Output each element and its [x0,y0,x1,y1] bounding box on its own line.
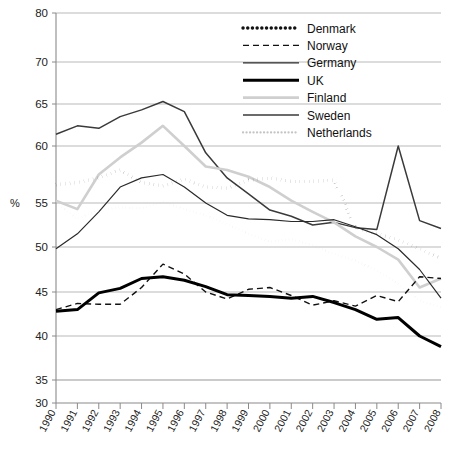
line-chart: 80706560555045403530%1990199119921993199… [0,0,450,470]
y-axis-labels: 80706560555045403530% [10,7,56,409]
y-tick-label-40: 40 [35,330,48,342]
gridlines [56,13,441,380]
x-tick-label-2005: 2005 [357,407,379,433]
series-group [56,101,441,346]
chart-canvas: 80706560555045403530%1990199119921993199… [0,0,450,470]
axes [56,13,441,403]
y-tick-label-70: 70 [35,56,48,68]
y-tick-label-50: 50 [35,241,48,253]
legend-label-sweden: Sweden [307,109,350,123]
x-tick-label-2008: 2008 [421,407,443,433]
legend-label-finland: Finland [307,91,346,105]
series-line-denmark [56,170,441,259]
x-tick-label-2002: 2002 [293,407,315,433]
x-tick-label-1994: 1994 [122,407,144,433]
x-tick-label-1995: 1995 [143,407,165,433]
x-tick-label-2007: 2007 [400,407,422,433]
x-tick-label-2000: 2000 [250,407,272,433]
x-tick-label-2006: 2006 [378,407,400,433]
series-line-norway [56,264,441,310]
legend: DenmarkNorwayGermanyUKFinlandSwedenNethe… [243,22,372,140]
legend-label-netherlands: Netherlands [307,126,372,140]
x-tick-label-1999: 1999 [229,407,251,433]
x-tick-label-2004: 2004 [336,407,358,433]
x-tick-label-2001: 2001 [271,407,293,433]
y-axis-title: % [10,197,20,209]
x-tick-label-1997: 1997 [186,407,208,433]
y-tick-label-60: 60 [35,140,48,152]
y-tick-label-80: 80 [35,7,48,19]
x-tick-label-1991: 1991 [58,407,80,433]
x-tick-label-2003: 2003 [314,407,336,433]
legend-label-uk: UK [307,74,324,88]
y-tick-label-35: 35 [35,374,48,386]
legend-label-germany: Germany [307,56,356,70]
x-tick-label-1996: 1996 [165,407,187,433]
legend-label-denmark: Denmark [307,22,357,36]
x-tick-label-1998: 1998 [207,407,229,433]
x-tick-label-1993: 1993 [100,407,122,433]
series-line-sweden [56,101,441,229]
y-tick-label-45: 45 [35,286,48,298]
x-tick-label-1992: 1992 [79,407,101,433]
legend-label-norway: Norway [307,39,348,53]
x-axis-labels: 1990199119921993199419951996199719981999… [36,403,443,434]
y-tick-label-65: 65 [35,98,48,110]
x-tick-label-1990: 1990 [36,407,58,433]
y-tick-label-30: 30 [35,397,48,409]
y-tick-label-55: 55 [35,197,48,209]
